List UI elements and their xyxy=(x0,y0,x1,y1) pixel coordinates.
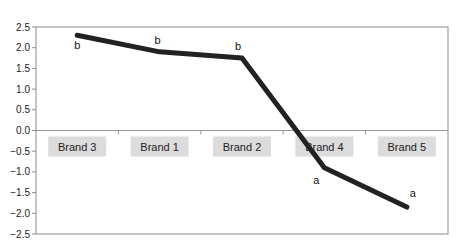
significance-letter: a xyxy=(410,187,417,199)
y-tick-label: −1.0 xyxy=(10,166,30,177)
category-label: Brand 5 xyxy=(388,141,427,153)
significance-letter: a xyxy=(313,174,320,186)
y-tick-label: 2.5 xyxy=(16,22,30,33)
y-tick-label: −2.0 xyxy=(10,208,30,219)
y-axis: 2.52.01.51.00.50.0−0.5−1.0−1.5−2.0−2.5 xyxy=(10,22,36,240)
y-tick-label: −0.5 xyxy=(10,146,30,157)
significance-letter: b xyxy=(235,40,241,52)
line-chart: 2.52.01.51.00.50.0−0.5−1.0−1.5−2.0−2.5 B… xyxy=(0,0,456,249)
y-tick-label: 1.5 xyxy=(16,63,30,74)
category-label: Brand 2 xyxy=(223,141,262,153)
y-tick-label: 0.5 xyxy=(16,104,30,115)
y-tick-label: −2.5 xyxy=(10,229,30,240)
y-tick-label: 0.0 xyxy=(16,125,30,136)
significance-letter: b xyxy=(74,39,80,51)
significance-letter: b xyxy=(155,34,161,46)
category-label: Brand 3 xyxy=(58,141,97,153)
y-tick-label: 2.0 xyxy=(16,42,30,53)
y-tick-label: 1.0 xyxy=(16,84,30,95)
y-tick-label: −1.5 xyxy=(10,187,30,198)
category-label: Brand 1 xyxy=(140,141,179,153)
